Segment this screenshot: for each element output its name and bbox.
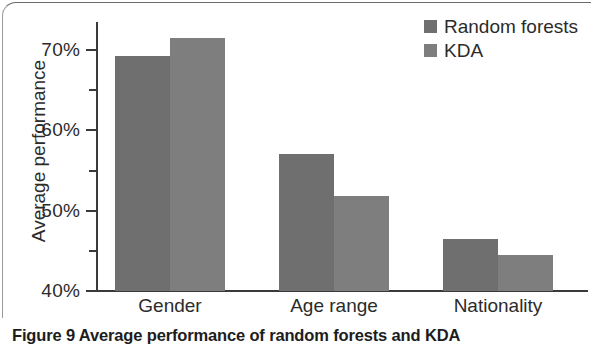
x-tick-label-gender: Gender	[90, 296, 250, 315]
legend-item-kda: KDA	[424, 38, 578, 62]
caption-label: Figure 9	[12, 326, 75, 344]
bar-nationality-random-forests	[443, 239, 498, 291]
y-axis-title: Average performance	[28, 26, 50, 276]
bar-age-range-kda	[334, 196, 389, 291]
bar-nationality-kda	[498, 255, 553, 291]
legend-swatch-icon	[424, 44, 437, 57]
caption-text: Average performance of random forests an…	[75, 326, 460, 344]
x-tick-label-nationality: Nationality	[418, 296, 578, 315]
plot-area	[96, 22, 588, 291]
legend-label: Random forests	[444, 17, 578, 36]
y-tick-label: 40%	[41, 281, 80, 300]
legend-label: KDA	[444, 41, 483, 60]
legend-item-random-forests: Random forests	[424, 14, 578, 38]
bar-gender-random-forests	[115, 56, 170, 291]
bar-age-range-random-forests	[279, 154, 334, 291]
bar-gender-kda	[170, 38, 225, 291]
x-tick-label-age-range: Age range	[254, 296, 414, 315]
legend-swatch-icon	[424, 20, 437, 33]
figure-caption: Figure 9 Average performance of random f…	[12, 326, 587, 345]
figure-chart: 40%50%60%70% Average performance GenderA…	[0, 0, 593, 318]
chart-legend: Random forestsKDA	[424, 14, 578, 62]
